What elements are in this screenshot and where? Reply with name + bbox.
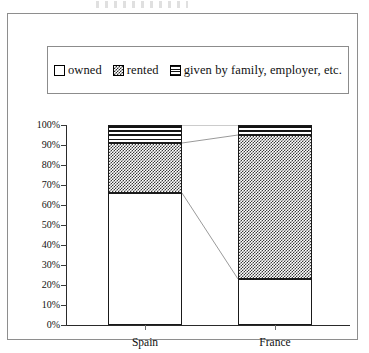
y-axis-tick-mark — [61, 245, 67, 246]
legend-item-owned: owned — [54, 64, 102, 77]
y-axis-tick-mark — [61, 205, 67, 206]
legend-label-owned: owned — [68, 64, 102, 77]
bar-segment-spain-rented[interactable] — [109, 143, 181, 193]
x-axis-category-spain: Spain — [132, 336, 158, 348]
y-axis-tick-label: 100% — [37, 120, 60, 130]
y-axis-tick-label: 20% — [42, 280, 60, 290]
legend-entries: owned rented given by family, employer, … — [54, 64, 342, 77]
y-axis-tick-mark — [61, 285, 67, 286]
x-axis-line — [66, 325, 350, 326]
y-axis-tick-label: 80% — [42, 160, 60, 170]
y-axis-tick-mark — [61, 325, 67, 326]
bar-segment-spain-given-by-family-employer-etc[interactable] — [109, 125, 181, 143]
y-axis-tick-label: 30% — [42, 260, 60, 270]
y-axis-labels: 0%10%20%30%40%50%60%70%80%90%100% — [26, 114, 60, 320]
connector-line-owned — [182, 193, 238, 279]
legend-swatch-owned-icon — [54, 65, 65, 76]
y-axis-tick-label: 50% — [42, 220, 60, 230]
y-axis-tick-label: 90% — [42, 140, 60, 150]
bar-segment-spain-owned[interactable] — [109, 193, 181, 325]
y-axis-tick-label: 40% — [42, 240, 60, 250]
y-axis-tick-label: 10% — [42, 300, 60, 310]
plot-area — [67, 125, 350, 325]
connector-line-rented — [182, 135, 238, 143]
figure-frame: owned rented given by family, employer, … — [7, 13, 358, 340]
y-axis-tick-label: 0% — [47, 320, 60, 330]
bar-spain[interactable] — [108, 125, 182, 325]
y-axis-tick-mark — [61, 225, 67, 226]
x-axis-tick-mark — [145, 325, 146, 330]
x-axis-tick-mark — [275, 325, 276, 330]
legend-label-rented: rented — [127, 64, 159, 77]
legend-swatch-rented-icon — [113, 65, 124, 76]
legend-swatch-given-icon — [170, 65, 181, 76]
bar-segment-france-owned[interactable] — [239, 279, 311, 325]
y-axis-tick-mark — [61, 305, 67, 306]
legend-item-given: given by family, employer, etc. — [170, 64, 342, 77]
x-axis-category-france: France — [259, 336, 290, 348]
y-axis-tick-mark — [61, 265, 67, 266]
y-axis-tick-mark — [61, 125, 67, 126]
bar-segment-france-given-by-family-employer-etc[interactable] — [239, 125, 311, 135]
y-axis-tick-label: 60% — [42, 200, 60, 210]
legend-label-given: given by family, employer, etc. — [184, 64, 342, 77]
legend-item-rented: rented — [113, 64, 159, 77]
chart-plot: 0%10%20%30%40%50%60%70%80%90%100% SpainF… — [26, 114, 356, 353]
y-axis-tick-mark — [61, 145, 67, 146]
bar-france[interactable] — [238, 125, 312, 325]
x-axis-labels: SpainFrance — [67, 336, 350, 353]
scan-artifact — [96, 1, 188, 8]
y-axis-tick-mark — [61, 185, 67, 186]
y-axis-tick-label: 70% — [42, 180, 60, 190]
y-axis-tick-mark — [61, 165, 67, 166]
chart-legend: owned rented given by family, employer, … — [47, 46, 349, 94]
bar-segment-france-rented[interactable] — [239, 135, 311, 279]
